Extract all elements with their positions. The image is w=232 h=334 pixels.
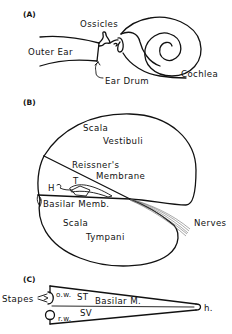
reissners-label-1: Reissner's (72, 160, 119, 170)
ossicles-shape (99, 32, 110, 46)
scala-vestibuli-label-1: Scala (83, 123, 108, 133)
cochlea-inner-curve (121, 32, 160, 66)
panel-a-label: (A) (23, 10, 36, 19)
panel-b-label: (B) (23, 98, 36, 107)
scala-vestibuli-label-2: Vestibuli (103, 136, 143, 146)
basilar-membrane-label: Basilar Memb. (43, 199, 109, 209)
cochlea-label: Cochlea (181, 69, 218, 79)
tectorial-label: T (72, 176, 79, 186)
outer-ear-canal-top (40, 36, 99, 43)
reissners-label-2: Membrane (96, 171, 145, 181)
stapes-shape (110, 38, 123, 52)
cochlea-spiral (121, 17, 201, 76)
cochlea-diagram: (A) Outer Ear Ossicles Ear Drum Cochlea … (0, 0, 232, 334)
scala-vestibuli-outline (44, 114, 196, 205)
helicotrema-label: h. (204, 303, 213, 313)
hair-cell-label: H (48, 183, 55, 193)
scala-tympani-label-1: Scala (63, 218, 88, 228)
stapes-connector (38, 294, 48, 302)
ear-drum-arrowhead (95, 62, 100, 65)
left-wall (38, 156, 44, 200)
sv-label: SV (80, 308, 92, 318)
outer-ear-label: Outer Ear (28, 47, 73, 57)
round-window (46, 311, 55, 320)
helicotrema-end (196, 304, 201, 310)
panel-b: (B) Scala Vestibuli Reissner's Membrane … (23, 98, 227, 266)
panel-a: (A) Outer Ear Ossicles Ear Drum Cochlea (23, 10, 218, 86)
panel-c-label: (C) (23, 275, 35, 284)
hair-cell-pointer (57, 184, 72, 190)
panel-c: (C) Stapes o.w. ST Basilar M. r.w. SV h. (2, 275, 213, 324)
stapes-label: Stapes (2, 294, 34, 304)
ossicles-label: Ossicles (80, 19, 118, 29)
basilar-partition (52, 306, 194, 307)
round-window-label: r.w. (58, 314, 71, 323)
basilar-m-label: Basilar M. (95, 296, 141, 306)
scala-tympani-label-2: Tympani (85, 232, 125, 242)
ear-drum-label: Ear Drum (105, 76, 149, 86)
outer-ear-canal-bottom (40, 60, 97, 66)
duct-lower-wall (50, 310, 196, 324)
nerves-label: Nerves (194, 218, 227, 228)
st-label: ST (77, 292, 89, 302)
oval-window-label: o.w. (56, 290, 71, 299)
